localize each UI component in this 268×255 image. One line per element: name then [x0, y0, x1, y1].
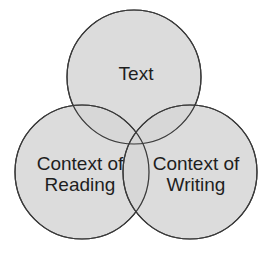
- label-writing-line2: Writing: [167, 174, 226, 195]
- venn-diagram: Text Context of Reading Context of Writi…: [0, 0, 268, 255]
- label-reading-line1: Context of: [37, 153, 124, 174]
- label-reading-line2: Reading: [45, 174, 116, 195]
- label-writing-line1: Context of: [153, 153, 240, 174]
- label-text: Text: [119, 63, 155, 84]
